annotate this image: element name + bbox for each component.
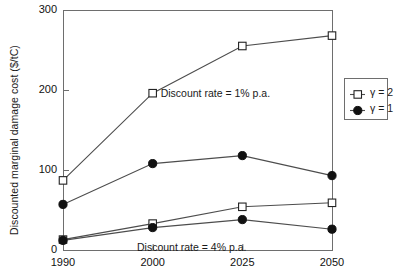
annotation-discount-rate-1pct: Discount rate = 1% p.a. [161, 87, 270, 99]
chart-legend: γ = 2 γ = 1 [344, 78, 388, 120]
legend-item-gamma-2: γ = 2 [349, 85, 393, 99]
legend-label-gamma-1: γ = 1 [370, 102, 393, 114]
filled-circle-marker-icon [349, 102, 367, 114]
plot-area [0, 0, 396, 280]
annotation-discount-rate-4pct: Discount rate = 4% p.a. [137, 241, 246, 253]
legend-label-gamma-2: γ = 2 [370, 86, 393, 98]
chart-figure: Discounted marginal damage cost ($/tC) 0… [0, 0, 396, 280]
legend-item-gamma-1: γ = 1 [349, 101, 393, 115]
open-square-marker-icon [349, 86, 367, 98]
